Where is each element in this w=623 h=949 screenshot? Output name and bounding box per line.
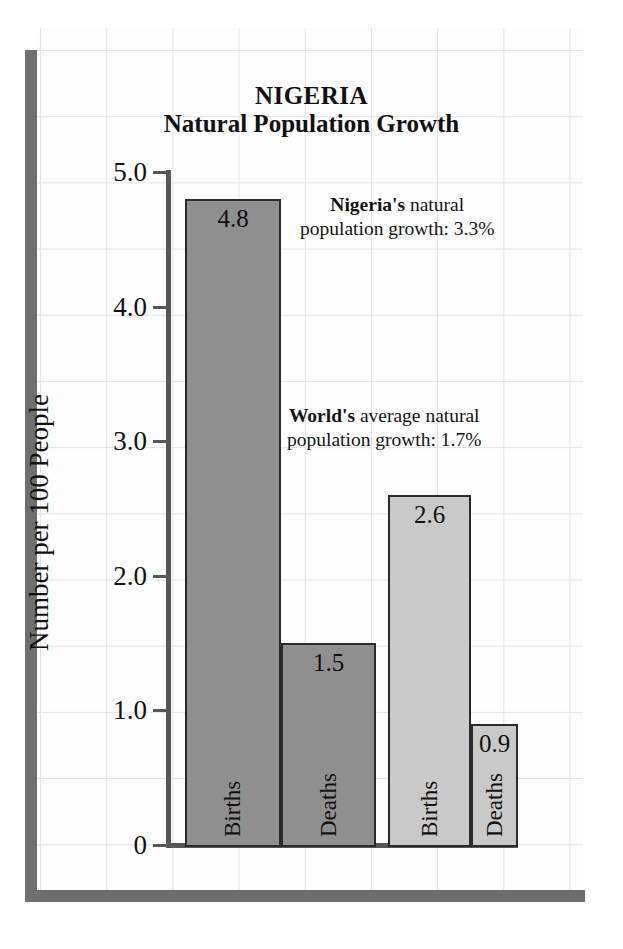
y-tick-mark <box>153 306 167 309</box>
bar-value-label: 2.6 <box>390 501 469 529</box>
annotation-nigeria-line1: Nigeria's natural <box>300 193 494 217</box>
annotation-world-line1-rest: average natural <box>355 405 480 426</box>
annotation-nigeria: Nigeria's natural population growth: 3.3… <box>300 193 494 241</box>
y-tick-label: 5.0 <box>87 157 147 188</box>
bar: 4.8Births <box>185 199 281 847</box>
bar-category-wrap: Deaths <box>283 727 374 837</box>
y-tick-label: 3.0 <box>87 426 147 457</box>
bar: 1.5Deaths <box>281 643 376 847</box>
y-tick-mark <box>153 440 167 443</box>
y-axis-title: Number per 100 People <box>24 303 55 743</box>
y-tick-label: 4.0 <box>87 291 147 322</box>
y-tick-mark <box>153 171 167 174</box>
bar-value-label: 4.8 <box>187 205 279 233</box>
bar-category-wrap: Deaths <box>473 727 516 837</box>
bar-category-label: Births <box>417 781 443 837</box>
bar-category-label: Deaths <box>316 773 342 837</box>
y-tick-label: 1.0 <box>87 695 147 726</box>
chart-page: NIGERIA Natural Population Growth Nigeri… <box>0 0 623 949</box>
y-tick-mark <box>153 844 167 847</box>
bar: 2.6Births <box>388 495 471 847</box>
y-tick-label: 2.0 <box>87 560 147 591</box>
annotation-world-lead: World's <box>289 405 355 426</box>
y-tick-mark <box>153 709 167 712</box>
annotation-world: World's average natural population growt… <box>287 404 481 452</box>
annotation-world-line2: population growth: 1.7% <box>287 428 481 452</box>
bar-value-label: 1.5 <box>283 649 374 677</box>
y-tick-label: 0 <box>87 830 147 861</box>
y-axis-line <box>166 170 171 847</box>
annotation-nigeria-line1-rest: natural <box>405 194 464 215</box>
annotation-world-line1: World's average natural <box>287 404 481 428</box>
bar-category-wrap: Births <box>390 727 469 837</box>
annotation-nigeria-lead: Nigeria's <box>330 194 405 215</box>
annotation-nigeria-line2: population growth: 3.3% <box>300 217 494 241</box>
bar-category-wrap: Births <box>187 727 279 837</box>
y-tick-mark <box>153 575 167 578</box>
bar: 0.9Deaths <box>471 724 518 847</box>
y-axis-tick-labels: 5.04.03.02.01.00 <box>85 0 147 949</box>
bar-category-label: Deaths <box>482 773 508 837</box>
bar-category-label: Births <box>220 781 246 837</box>
